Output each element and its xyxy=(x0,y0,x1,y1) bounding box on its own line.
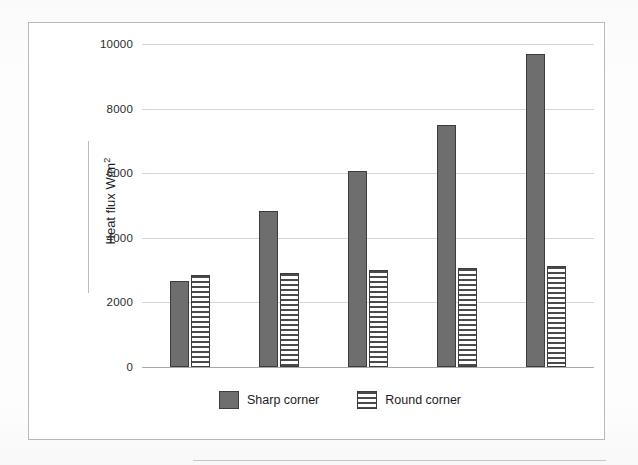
legend-label-round-corner: Round corner xyxy=(385,393,461,407)
bar-sharp-corner-3[interactable] xyxy=(348,171,367,367)
y-tick-label-10000: 10000 xyxy=(100,38,133,50)
bar-sharp-corner-1[interactable] xyxy=(170,281,189,367)
bar-sharp-corner-2[interactable] xyxy=(259,211,278,367)
y-axis-title: Heat flux W/m2 xyxy=(102,126,118,276)
y-tick-label-6000: 6000 xyxy=(107,167,133,179)
y-tick-label-2000: 2000 xyxy=(107,296,133,308)
chart-legend: Sharp corner Round corner xyxy=(219,391,461,409)
y-axis-rule xyxy=(88,141,89,293)
x-axis-baseline: 0 xyxy=(142,367,594,368)
y-tick-label-0: 0 xyxy=(126,361,133,373)
chart-figure-frame: Heat flux W/m2 10000 8000 6000 4000 2000… xyxy=(28,22,605,440)
y-tick-label-4000: 4000 xyxy=(107,232,133,244)
plot-area: 10000 8000 6000 4000 2000 0 xyxy=(142,44,594,367)
y-axis-title-container: Heat flux W/m2 xyxy=(81,141,121,301)
gridline-10000: 10000 xyxy=(142,44,594,45)
legend-item-sharp-corner[interactable]: Sharp corner xyxy=(219,391,319,409)
bar-round-corner-5[interactable] xyxy=(547,266,566,367)
legend-swatch-sharp-corner-icon xyxy=(219,391,239,409)
bar-sharp-corner-4[interactable] xyxy=(437,125,456,367)
bar-round-corner-2[interactable] xyxy=(280,273,299,367)
bar-round-corner-1[interactable] xyxy=(191,275,210,367)
legend-swatch-round-corner-icon xyxy=(357,391,377,409)
y-axis-title-superscript: 2 xyxy=(102,158,112,163)
legend-label-sharp-corner: Sharp corner xyxy=(247,393,319,407)
lower-horizontal-rule xyxy=(193,460,606,461)
bar-sharp-corner-5[interactable] xyxy=(526,54,545,367)
bar-round-corner-3[interactable] xyxy=(369,270,388,367)
y-tick-label-8000: 8000 xyxy=(107,103,133,115)
bar-round-corner-4[interactable] xyxy=(458,268,477,368)
legend-item-round-corner[interactable]: Round corner xyxy=(357,391,461,409)
